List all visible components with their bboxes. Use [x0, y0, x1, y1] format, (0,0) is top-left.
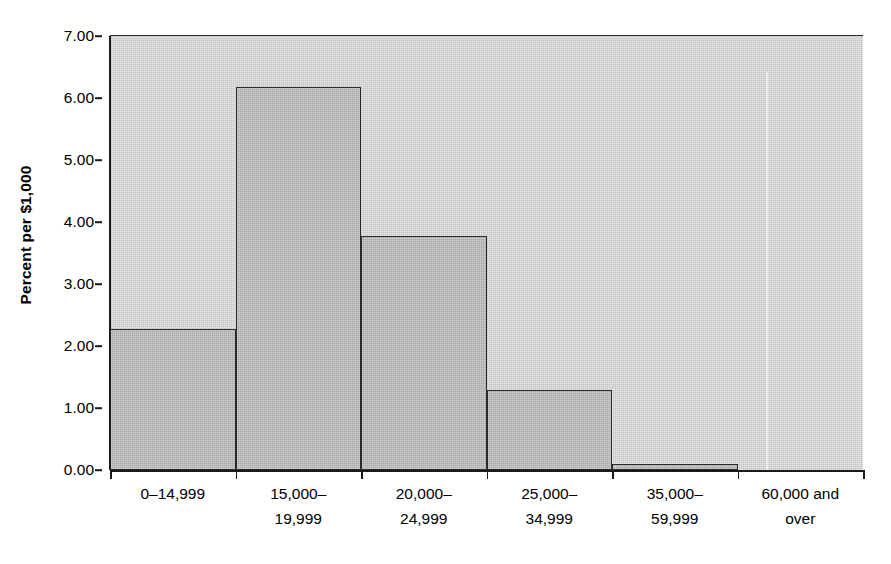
y-axis-tick-mark	[95, 407, 102, 409]
x-axis-tick-label: 0–14,999	[110, 481, 236, 506]
x-axis-tick-label-line2: over	[738, 506, 864, 531]
y-axis-tick-mark	[95, 97, 102, 99]
y-axis-tick-label: 7.00	[64, 27, 94, 45]
y-axis-tick-labels: 0.001.002.003.004.005.006.007.00	[40, 0, 102, 564]
x-axis-tick-label-line1: 15,000–	[270, 485, 326, 502]
y-axis-tick-label: 5.00	[64, 151, 94, 169]
x-axis-tick-label-line1: 0–14,999	[140, 485, 205, 502]
x-axis-tick-label: 25,000–34,999	[487, 481, 613, 531]
x-axis-tick-label-line2: 19,999	[236, 506, 362, 531]
x-axis-tick-label-line1: 25,000–	[521, 485, 577, 502]
x-axis-tick-label-line1: 20,000–	[396, 485, 452, 502]
y-axis-tick-label: 0.00	[64, 461, 94, 479]
x-axis-tick-label-line2: 24,999	[361, 506, 487, 531]
scan-streak-artifact	[766, 72, 768, 470]
y-axis-tick-mark	[95, 159, 102, 161]
y-axis-line	[109, 36, 111, 470]
y-axis-tick-label: 3.00	[64, 275, 94, 293]
x-axis-tick-label: 20,000–24,999	[361, 481, 487, 531]
y-axis-tick-mark	[95, 35, 102, 37]
x-axis-tick-mark	[110, 470, 112, 479]
y-axis-tick-mark	[95, 345, 102, 347]
x-axis-tick-mark	[863, 470, 865, 479]
plot-area	[110, 36, 863, 470]
y-axis-tick-mark	[95, 283, 102, 285]
x-axis-tick-mark	[361, 470, 363, 479]
x-axis-tick-mark	[487, 470, 489, 479]
figure-caption	[140, 551, 740, 564]
x-axis-tick-label-line1: 35,000–	[647, 485, 703, 502]
y-axis-tick-mark	[95, 469, 102, 471]
y-axis-tick-mark	[95, 221, 102, 223]
x-axis-tick-labels: 0–14,99915,000–19,99920,000–24,99925,000…	[110, 481, 864, 551]
x-axis-tick-label-line2: 34,999	[487, 506, 613, 531]
histogram-figure: Percent per $1,000 0.001.002.003.004.005…	[0, 0, 891, 564]
x-axis-tick-label: 60,000 andover	[738, 481, 864, 531]
y-axis-tick-label: 1.00	[64, 399, 94, 417]
bar	[110, 329, 236, 470]
bar	[487, 390, 613, 470]
bar	[361, 236, 487, 470]
y-axis-tick-label: 6.00	[64, 89, 94, 107]
y-axis-tick-label: 2.00	[64, 337, 94, 355]
x-axis-tick-label-line1: 60,000 and	[761, 485, 839, 502]
x-axis-tick-label: 35,000–59,999	[612, 481, 738, 531]
x-axis-tick-label-line2: 59,999	[612, 506, 738, 531]
y-axis-tick-label: 4.00	[64, 213, 94, 231]
x-axis-tick-mark	[738, 470, 740, 479]
bar	[236, 87, 362, 470]
x-axis-tick-mark	[612, 470, 614, 479]
x-axis-tick-label: 15,000–19,999	[236, 481, 362, 531]
y-axis-title-text: Percent per $1,000	[17, 166, 35, 305]
x-axis-tick-mark	[236, 470, 238, 479]
